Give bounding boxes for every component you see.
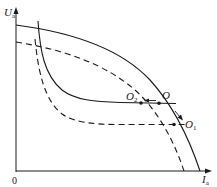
source-curve-dashed — [16, 42, 184, 171]
x-axis-label: Ia — [201, 173, 210, 187]
arrow-O-to-O2-icon — [144, 99, 156, 103]
point-O1-label: O1 — [185, 118, 197, 132]
y-axis — [14, 7, 19, 172]
arc-curve-dashed — [35, 39, 185, 125]
x-axis-arrow-icon — [205, 169, 212, 174]
point-O2-marker — [139, 101, 143, 105]
point-O-label: O — [162, 89, 170, 101]
source-curve-solid — [16, 25, 200, 171]
arc-curve-solid — [38, 21, 176, 104]
point-O2-label: O2 — [126, 90, 138, 104]
y-axis-label: Ua — [4, 6, 16, 20]
point-O1-marker — [172, 123, 176, 127]
diagram-svg: Ua Ia 0 O O1 O2 — [0, 0, 217, 187]
point-O-marker — [157, 102, 161, 106]
origin-label: 0 — [12, 175, 17, 186]
x-axis — [16, 169, 212, 174]
diagram-canvas: Ua Ia 0 O O1 O2 — [0, 0, 217, 187]
